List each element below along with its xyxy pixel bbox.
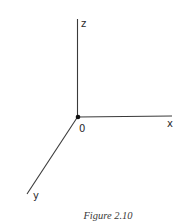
z-axis-label: z: [81, 18, 86, 29]
coordinate-axes-diagram: z x y 0 Figure 2.10: [0, 0, 187, 224]
figure-caption: Figure 2.10: [82, 210, 133, 221]
y-axis-line: [27, 117, 78, 194]
origin-label: 0: [79, 123, 85, 134]
x-axis-label: x: [167, 118, 173, 129]
x-axis-line: [78, 116, 173, 117]
origin-point: [76, 115, 81, 120]
y-axis-label: y: [33, 190, 39, 201]
